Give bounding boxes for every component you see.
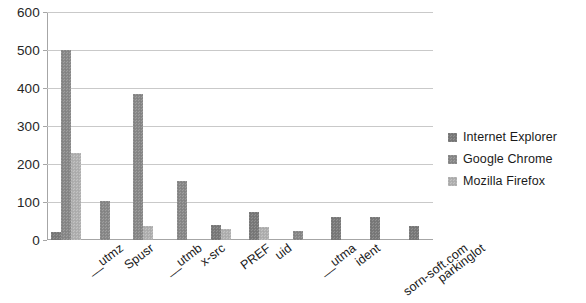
legend-item-label: Internet Explorer xyxy=(463,130,557,144)
bar xyxy=(293,231,303,241)
x-axis-tick-label: uid xyxy=(273,241,295,262)
bar-group xyxy=(201,12,240,240)
y-axis-tick-label: 600 xyxy=(17,5,40,20)
bar-group xyxy=(317,12,356,240)
bar xyxy=(133,94,143,240)
bar-group xyxy=(394,12,433,240)
legend-item[interactable]: Mozilla Firefox xyxy=(448,170,582,192)
bar xyxy=(71,153,81,240)
x-axis-tick-label: __utmz xyxy=(85,241,127,277)
bar-group xyxy=(163,12,202,240)
bar-group xyxy=(86,12,125,240)
bar xyxy=(100,201,110,240)
bar-group xyxy=(356,12,395,240)
bar xyxy=(61,50,71,240)
bar xyxy=(221,229,231,240)
y-axis-tick-label: 400 xyxy=(17,81,40,96)
x-axis-tick-label: Spusr xyxy=(122,241,157,272)
bar-group xyxy=(279,12,318,240)
x-axis-tick-label: ident xyxy=(352,241,382,269)
legend-item-label: Google Chrome xyxy=(463,152,553,166)
legend-swatch-icon xyxy=(448,155,457,164)
bar-chart-figure: 0100200300400500600 __utmzSpusr__utmbx-s… xyxy=(0,0,586,303)
bar-group xyxy=(124,12,163,240)
bar xyxy=(409,226,419,240)
plot-area: 0100200300400500600 xyxy=(47,12,433,240)
bar xyxy=(177,181,187,240)
y-axis-tick-label: 0 xyxy=(32,233,40,248)
bars-layer xyxy=(47,12,433,240)
x-axis-tick-labels: __utmzSpusr__utmbx-srcPREFuid__utmaident… xyxy=(47,241,433,303)
y-axis-tick-label: 100 xyxy=(17,195,40,210)
bar xyxy=(370,217,380,240)
legend-item[interactable]: Internet Explorer xyxy=(448,126,582,148)
bar xyxy=(331,217,341,240)
bar-group xyxy=(47,12,86,240)
bar xyxy=(249,212,259,241)
legend-item[interactable]: Google Chrome xyxy=(448,148,582,170)
bar xyxy=(51,232,61,240)
x-axis-tick-label: __utma xyxy=(316,241,358,278)
legend-item-label: Mozilla Firefox xyxy=(463,174,545,188)
y-axis-tick-label: 300 xyxy=(17,119,40,134)
x-axis-tick-label: PREF xyxy=(237,241,272,272)
y-axis-tick-label: 200 xyxy=(17,157,40,172)
x-axis-tick-label: x-src xyxy=(198,241,228,269)
chart-legend: Internet ExplorerGoogle ChromeMozilla Fi… xyxy=(448,126,582,192)
bar xyxy=(211,225,221,240)
bar xyxy=(259,227,269,240)
bar xyxy=(143,226,153,240)
legend-swatch-icon xyxy=(448,177,457,186)
bar-group xyxy=(240,12,279,240)
legend-swatch-icon xyxy=(448,133,457,142)
y-axis-tick-label: 500 xyxy=(17,43,40,58)
